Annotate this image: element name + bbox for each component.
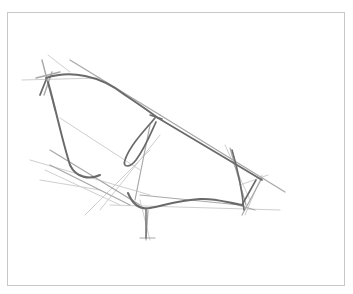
paper-background [0,0,353,294]
sketch-canvas [0,0,353,294]
mid-strokes [36,60,285,240]
main-outline [40,74,262,238]
construction-lines [22,55,280,240]
